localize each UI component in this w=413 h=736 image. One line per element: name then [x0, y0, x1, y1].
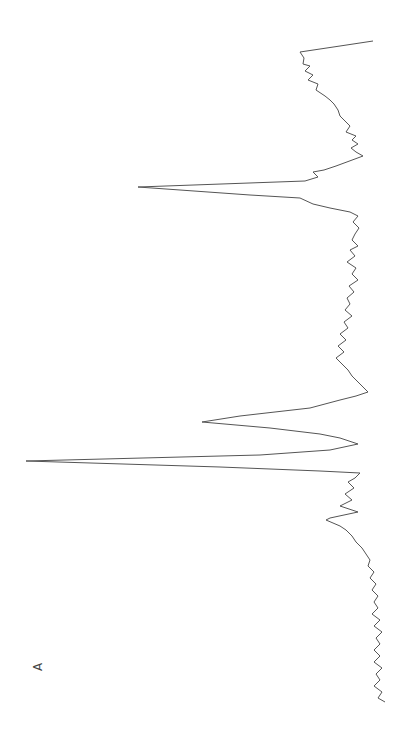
spectrum-trace [26, 41, 385, 702]
panel-label: A [31, 663, 45, 671]
spectrum-plot [0, 0, 413, 736]
